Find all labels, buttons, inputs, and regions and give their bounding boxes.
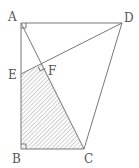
label-f: F bbox=[48, 64, 56, 78]
segment-cd bbox=[84, 23, 122, 149]
label-b: B bbox=[12, 152, 21, 166]
geometry-diagram: A D E F B C bbox=[0, 0, 139, 168]
label-e: E bbox=[8, 68, 17, 82]
segment-de bbox=[21, 23, 122, 74]
label-c: C bbox=[84, 152, 93, 166]
label-d: D bbox=[124, 11, 134, 25]
label-a: A bbox=[7, 10, 17, 24]
